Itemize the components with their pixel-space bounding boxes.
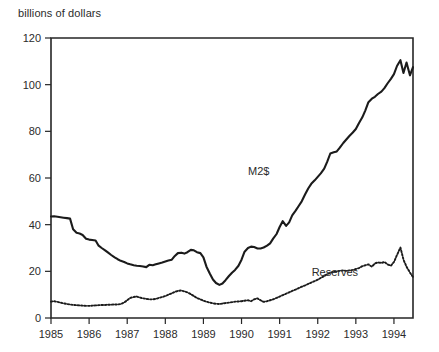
x-tick-label: 1988 bbox=[153, 328, 177, 340]
chart-figure: billions of dollars 020406080100120 1985… bbox=[0, 0, 439, 352]
x-axis-tick-marks bbox=[51, 318, 394, 324]
line-chart-plot: 020406080100120 198519861987198819891990… bbox=[0, 0, 439, 352]
series-line-reserves bbox=[51, 248, 413, 306]
x-tick-label: 1992 bbox=[305, 328, 329, 340]
series-label-reserves: Reserves bbox=[312, 266, 359, 278]
x-tick-label: 1986 bbox=[77, 328, 101, 340]
x-axis-tick-labels: 1985198619871988198919901991199219931994 bbox=[39, 328, 406, 340]
series-label-m2: M2$ bbox=[248, 165, 269, 177]
y-tick-label: 60 bbox=[29, 172, 41, 184]
y-axis-tick-labels: 020406080100120 bbox=[23, 32, 41, 324]
plot-frame bbox=[51, 38, 413, 318]
y-tick-label: 100 bbox=[23, 79, 41, 91]
x-tick-label: 1985 bbox=[39, 328, 63, 340]
x-tick-label: 1991 bbox=[267, 328, 291, 340]
x-tick-label: 1994 bbox=[382, 328, 406, 340]
y-tick-label: 120 bbox=[23, 32, 41, 44]
series-line-m2 bbox=[51, 60, 413, 285]
x-tick-label: 1990 bbox=[229, 328, 253, 340]
x-tick-label: 1987 bbox=[115, 328, 139, 340]
y-tick-label: 40 bbox=[29, 219, 41, 231]
y-tick-label: 20 bbox=[29, 265, 41, 277]
y-tick-label: 0 bbox=[35, 312, 41, 324]
series-annotations: M2$Reserves bbox=[248, 165, 359, 279]
y-axis-tick-marks bbox=[45, 38, 51, 318]
x-tick-label: 1989 bbox=[191, 328, 215, 340]
y-tick-label: 80 bbox=[29, 125, 41, 137]
x-tick-label: 1993 bbox=[344, 328, 368, 340]
